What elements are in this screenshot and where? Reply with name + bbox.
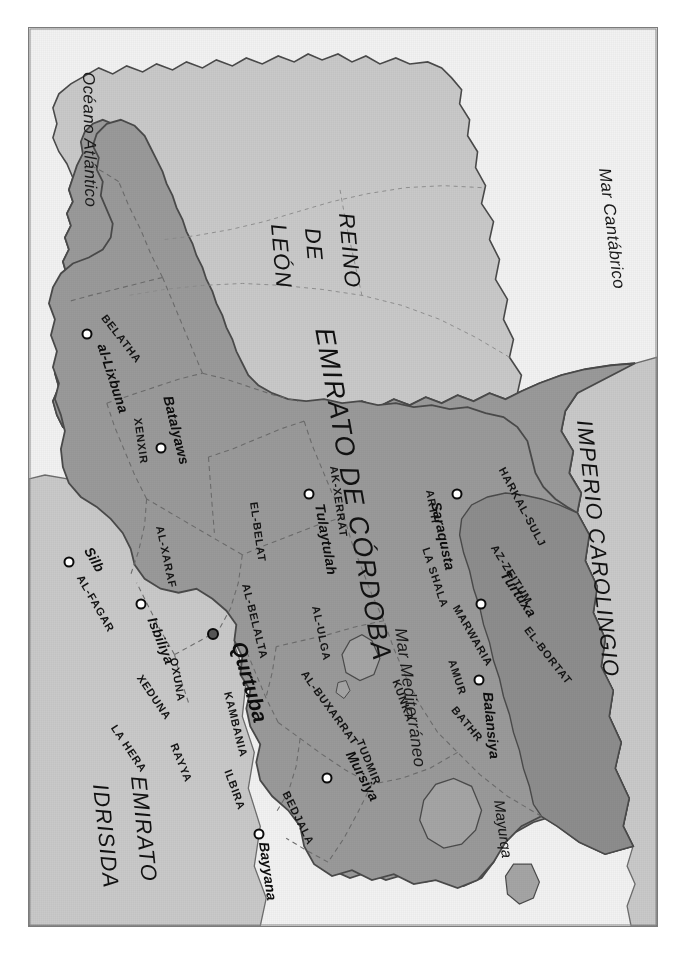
city-dot-tulaytulah[interactable] [304,489,315,500]
map-geometry [29,28,657,926]
city-dot-isbiliya[interactable] [136,599,147,610]
city-dot-saraqusta[interactable] [452,489,463,500]
city-dot-balansiya[interactable] [474,675,485,686]
city-dot-qurtuba[interactable] [207,628,219,640]
city-dot-al-lixbuna[interactable] [82,329,93,340]
map-rotator: Mar Cantábrico Océano Atlántico Mar Medi… [28,27,658,927]
city-dot-batalyaws[interactable] [156,443,167,454]
city-dot-turtuxa[interactable] [476,599,487,610]
map-page: Mar Cantábrico Océano Atlántico Mar Medi… [0,0,686,955]
city-dot-mursiya[interactable] [322,773,333,784]
city-dot-bayyana[interactable] [254,829,265,840]
map-frame: Mar Cantábrico Océano Atlántico Mar Medi… [28,27,658,927]
city-dot-silb[interactable] [64,557,75,568]
